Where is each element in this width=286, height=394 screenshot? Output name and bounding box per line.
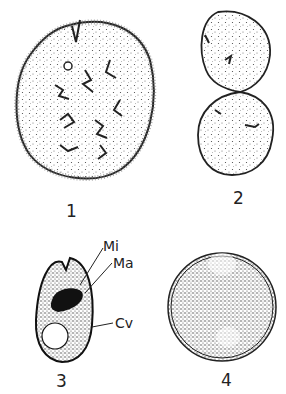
figure-label-2: 2 [233,188,244,208]
cell-1-drawing [17,20,154,178]
cell-4-drawing [168,253,276,361]
cell-3-drawing [36,248,113,362]
annotation-mi: Mi [103,238,119,254]
figure-label-4: 4 [221,370,232,390]
annotation-ma: Ma [113,255,134,271]
figure-label-1: 1 [66,201,77,221]
figure-label-3: 3 [56,371,67,391]
annotation-cv: Cv [115,315,133,331]
cell-2-drawing [198,11,273,175]
